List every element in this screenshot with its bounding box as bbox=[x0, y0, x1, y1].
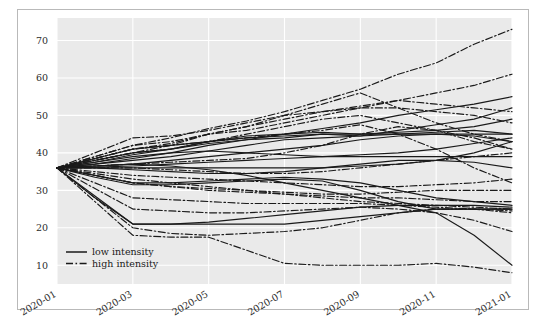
y-axis-ticks: 10203040506070 bbox=[36, 35, 48, 271]
y-tick-label: 40 bbox=[36, 147, 48, 158]
y-tick-label: 10 bbox=[36, 260, 48, 271]
x-tick-label: 2020-01 bbox=[18, 288, 58, 317]
y-tick-label: 30 bbox=[36, 185, 48, 196]
figure-container: 102030405060702020-012020-032020-052020-… bbox=[0, 0, 544, 329]
x-tick-label: 2020-05 bbox=[170, 288, 210, 317]
x-tick-label: 2020-03 bbox=[94, 288, 134, 317]
x-tick-label: 2021-01 bbox=[473, 288, 513, 317]
y-tick-label: 20 bbox=[36, 222, 48, 233]
line-chart: 102030405060702020-012020-032020-052020-… bbox=[0, 0, 544, 329]
legend-label: high intensity bbox=[92, 258, 159, 269]
x-tick-label: 2020-11 bbox=[397, 288, 437, 317]
legend-label: low intensity bbox=[92, 246, 154, 257]
x-tick-label: 2020-07 bbox=[246, 288, 286, 317]
y-tick-label: 50 bbox=[36, 110, 48, 121]
x-axis-ticks: 2020-012020-032020-052020-072020-092020-… bbox=[18, 288, 513, 317]
y-tick-label: 70 bbox=[36, 35, 48, 46]
y-tick-label: 60 bbox=[36, 72, 48, 83]
x-tick-label: 2020-09 bbox=[322, 288, 362, 317]
